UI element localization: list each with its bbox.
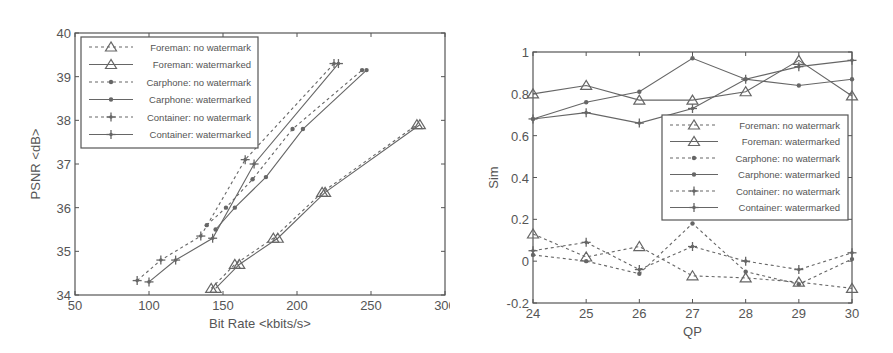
y-tick-label: 40 — [57, 26, 71, 41]
sim-vs-qp-chart: 24252627282930-0.200.20.40.60.81QPSimFor… — [440, 0, 893, 353]
y-tick-label: 34 — [57, 288, 71, 303]
dot-marker-icon — [850, 77, 854, 81]
x-tick-label: 27 — [685, 306, 699, 321]
legend-label: Container: watermarked — [739, 202, 840, 213]
dot-marker-icon — [743, 269, 747, 273]
x-tick-label: 100 — [138, 298, 160, 313]
dot-marker-icon — [637, 90, 641, 94]
series-4 — [529, 238, 857, 274]
y-tick-label: 1 — [522, 45, 529, 60]
legend-label: Foreman: watermarked — [153, 59, 251, 70]
x-tick-label: 150 — [212, 298, 234, 313]
dot-marker-icon — [301, 127, 305, 131]
legend: Foreman: no watermarkForeman: watermarke… — [81, 37, 258, 148]
psnr-vs-bitrate-chart: 5010015020025030034353637383940Bit Rate … — [0, 0, 450, 353]
psnr-chart-svg: 5010015020025030034353637383940Bit Rate … — [0, 0, 450, 353]
dot-marker-icon — [692, 156, 696, 160]
x-tick-label: 25 — [579, 306, 593, 321]
star-marker-icon — [529, 114, 538, 123]
y-tick-label: 0 — [522, 254, 529, 269]
legend-label: Container: watermarked — [150, 129, 251, 140]
y-tick-label: 0.8 — [511, 87, 529, 102]
dot-marker-icon — [850, 257, 854, 261]
star-marker-icon — [582, 238, 591, 247]
dot-marker-icon — [797, 83, 801, 87]
legend-label: Carphone: no watermark — [146, 77, 251, 88]
y-tick-label: 0.2 — [511, 212, 529, 227]
legend-label: Carphone: watermarked — [149, 94, 251, 105]
x-axis-label: Bit Rate <kbits/s> — [209, 316, 311, 331]
dot-marker-icon — [233, 205, 237, 209]
x-axis-label: QP — [683, 324, 702, 339]
y-tick-label: 35 — [57, 244, 71, 259]
series-line — [533, 224, 852, 285]
y-axis-label: PSNR <dB> — [28, 129, 43, 200]
y-tick-label: -0.2 — [507, 296, 529, 311]
x-tick-label: 250 — [360, 298, 382, 313]
dot-marker-icon — [250, 177, 254, 181]
legend-label: Container: no watermark — [736, 186, 840, 197]
star-marker-icon — [208, 234, 217, 243]
star-marker-icon — [196, 232, 205, 241]
series-1 — [528, 55, 858, 104]
x-tick-label: 30 — [845, 306, 859, 321]
dot-marker-icon — [360, 68, 364, 72]
legend-label: Container: no watermark — [147, 112, 251, 123]
y-tick-label: 0.6 — [511, 129, 529, 144]
dot-marker-icon — [109, 80, 113, 84]
star-marker-icon — [635, 119, 644, 128]
series-line — [533, 60, 852, 123]
y-tick-label: 36 — [57, 201, 71, 216]
dot-marker-icon — [692, 172, 696, 176]
y-tick-label: 39 — [57, 70, 71, 85]
x-tick-label: 26 — [632, 306, 646, 321]
legend-label: Foreman: no watermark — [150, 42, 251, 53]
x-tick-label: 28 — [738, 306, 752, 321]
dot-marker-icon — [264, 175, 268, 179]
dot-marker-icon — [224, 205, 228, 209]
x-tick-label: 29 — [792, 306, 806, 321]
star-marker-icon — [741, 257, 750, 266]
dot-marker-icon — [109, 97, 113, 101]
legend-label: Foreman: no watermark — [739, 120, 840, 131]
dot-marker-icon — [690, 56, 694, 60]
star-marker-icon — [741, 75, 750, 84]
star-marker-icon — [133, 276, 142, 285]
series-line — [216, 125, 420, 289]
x-tick-label: 200 — [286, 298, 308, 313]
dot-marker-icon — [584, 259, 588, 263]
y-tick-label: 38 — [57, 113, 71, 128]
dot-marker-icon — [690, 221, 694, 225]
series-0 — [528, 229, 858, 292]
legend-label: Foreman: watermarked — [742, 136, 840, 147]
star-marker-icon — [848, 248, 857, 257]
star-marker-icon — [688, 104, 697, 113]
star-marker-icon — [848, 56, 857, 65]
y-tick-label: 0.4 — [511, 171, 529, 186]
sim-chart-svg: 24252627282930-0.200.20.40.60.81QPSimFor… — [440, 0, 893, 353]
dot-marker-icon — [797, 282, 801, 286]
legend: Foreman: no watermarkForeman: watermarke… — [662, 115, 848, 220]
dot-marker-icon — [584, 100, 588, 104]
star-marker-icon — [794, 62, 803, 71]
y-tick-label: 37 — [57, 157, 71, 172]
triangle-marker-icon — [687, 271, 698, 280]
star-marker-icon — [582, 108, 591, 117]
legend-label: Carphone: watermarked — [738, 169, 840, 180]
star-marker-icon — [688, 242, 697, 251]
y-axis-label: Sim — [486, 166, 501, 188]
dot-marker-icon — [364, 68, 368, 72]
legend-label: Carphone: no watermark — [735, 153, 840, 164]
dot-marker-icon — [290, 127, 294, 131]
star-marker-icon — [794, 265, 803, 274]
star-marker-icon — [529, 246, 538, 255]
